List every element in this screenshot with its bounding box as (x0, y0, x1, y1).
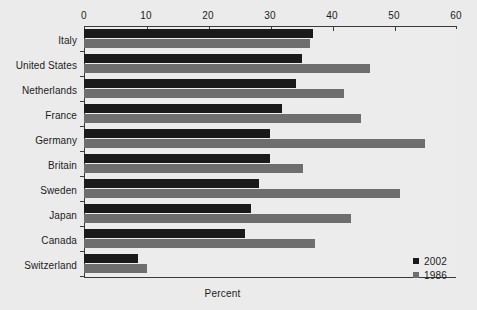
bar-1986-switzerland (84, 264, 147, 273)
legend-label: 1986 (424, 270, 447, 281)
bar-1986-britain (84, 164, 303, 173)
bar-1986-germany (84, 139, 425, 148)
legend-item-1986: 1986 (413, 269, 447, 281)
bar-row: France (84, 102, 476, 127)
y-tick-mark (80, 276, 85, 277)
bar-2002-britain (84, 154, 270, 163)
bar-2002-switzerland (84, 254, 138, 263)
bar-2002-germany (84, 129, 270, 138)
bar-1986-japan (84, 214, 351, 223)
x-tick-label: 60 (450, 10, 462, 21)
bar-1986-canada (84, 239, 315, 248)
category-label-germany: Germany (35, 134, 77, 145)
category-label-canada: Canada (41, 234, 77, 245)
x-axis-title-text: Percent (205, 288, 241, 299)
bar-1986-netherlands (84, 89, 344, 98)
bar-row: Sweden (84, 177, 476, 202)
bar-1986-united-states (84, 64, 370, 73)
bar-1986-france (84, 114, 361, 123)
x-tick-label: 40 (326, 10, 338, 21)
bar-2002-sweden (84, 179, 259, 188)
legend-label: 2002 (424, 256, 447, 267)
bar-row: Netherlands (84, 77, 476, 102)
bar-1986-sweden (84, 189, 400, 198)
bar-1986-italy (84, 39, 310, 48)
category-label-sweden: Sweden (40, 184, 77, 195)
category-label-united-states: United States (16, 59, 77, 70)
legend-item-2002: 2002 (413, 255, 447, 267)
dark-swatch-icon (413, 258, 419, 264)
x-axis-tick-labels: 0102030405060 (0, 10, 477, 24)
x-tick-label: 0 (81, 10, 87, 21)
bar-2002-canada (84, 229, 245, 238)
bar-2002-united-states (84, 54, 302, 63)
x-tick-label: 10 (140, 10, 152, 21)
chart-legend: 20021986 (413, 255, 447, 283)
x-tick-label: 20 (202, 10, 214, 21)
x-axis-title: Percent (0, 288, 477, 299)
gray-swatch-icon (413, 272, 419, 278)
bar-2002-japan (84, 204, 251, 213)
category-label-netherlands: Netherlands (22, 84, 77, 95)
category-label-switzerland: Switzerland (24, 259, 77, 270)
bar-chart: 0102030405060 ItalyUnited StatesNetherla… (0, 0, 477, 310)
category-label-france: France (45, 109, 77, 120)
bar-row: United States (84, 52, 476, 77)
bar-2002-italy (84, 29, 313, 38)
category-label-britain: Britain (48, 159, 77, 170)
bar-rows-container: ItalyUnited StatesNetherlandsFranceGerma… (84, 27, 476, 277)
x-tick-label: 50 (388, 10, 400, 21)
bar-row: Italy (84, 27, 476, 52)
bar-2002-netherlands (84, 79, 296, 88)
bar-row: Britain (84, 152, 476, 177)
bar-2002-france (84, 104, 282, 113)
category-label-italy: Italy (58, 34, 77, 45)
bar-row: Germany (84, 127, 476, 152)
x-tick-label: 30 (264, 10, 276, 21)
category-label-japan: Japan (49, 209, 77, 220)
bar-row: Japan (84, 202, 476, 227)
bar-row: Canada (84, 227, 476, 252)
